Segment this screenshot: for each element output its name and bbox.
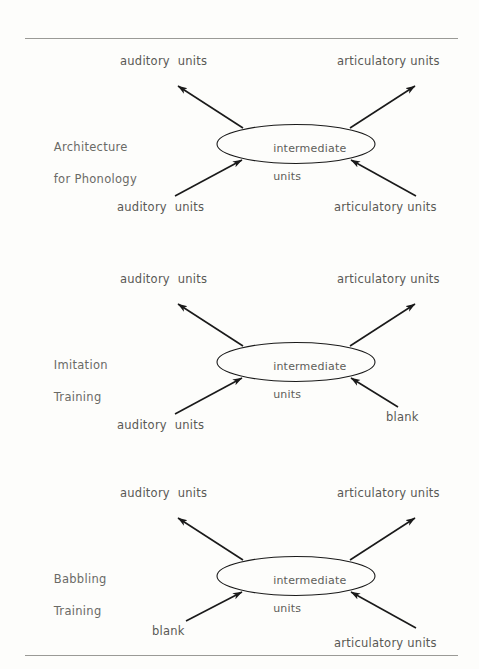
node-label-line1: intermediate [273, 360, 346, 373]
diagram-page: Architecture for Phonology intermediate … [0, 0, 479, 669]
label-top-left: auditory units [120, 54, 207, 69]
section-label-line2: Training [54, 390, 102, 404]
diagram-block-babbling-training: Babbling Training intermediate units aud… [0, 476, 479, 669]
section-label-line1: Imitation [54, 358, 108, 372]
arrow-out-upper-right [350, 86, 415, 128]
label-top-left: auditory units [120, 486, 207, 501]
arrow-out-upper-left [178, 304, 243, 346]
label-top-left: auditory units [120, 272, 207, 287]
label-top-right: articulatory units [337, 486, 440, 501]
arrow-out-upper-right [350, 304, 415, 346]
diagram-block-architecture-for-phonology: Architecture for Phonology intermediate … [0, 44, 479, 244]
label-bottom-right: blank [386, 410, 419, 425]
node-label: intermediate units [251, 560, 346, 630]
arrow-out-upper-left [178, 518, 243, 560]
node-label-line1: intermediate [273, 142, 346, 155]
label-top-right: articulatory units [337, 54, 440, 69]
section-label: Imitation Training [30, 341, 108, 421]
node-label-line1: intermediate [273, 574, 346, 587]
node-label: intermediate units [251, 128, 346, 198]
arrow-in-lower-left [175, 160, 242, 196]
label-bottom-right: articulatory units [334, 636, 437, 651]
arrow-in-lower-right [351, 378, 398, 407]
label-bottom-left: auditory units [117, 418, 204, 433]
node-label-line2: units [273, 602, 301, 615]
node-label-line2: units [273, 388, 301, 401]
label-bottom-left: blank [152, 624, 185, 639]
arrow-in-lower-left [186, 592, 242, 621]
section-label-line2: Training [54, 604, 102, 618]
node-label: intermediate units [251, 346, 346, 416]
arrow-out-upper-right [350, 518, 415, 560]
section-label-line1: Architecture [54, 140, 128, 154]
arrow-in-lower-right [351, 160, 416, 196]
section-label: Babbling Training [30, 555, 107, 635]
section-label-line1: Babbling [54, 572, 107, 586]
label-bottom-right: articulatory units [334, 200, 437, 215]
label-top-right: articulatory units [337, 272, 440, 287]
top-horizontal-rule [25, 38, 458, 39]
arrow-in-lower-right [351, 592, 416, 628]
section-label-line2: for Phonology [54, 172, 137, 186]
arrow-out-upper-left [178, 86, 243, 128]
arrow-in-lower-left [175, 378, 242, 414]
label-bottom-left: auditory units [117, 200, 204, 215]
node-label-line2: units [273, 170, 301, 183]
diagram-block-imitation-training: Imitation Training intermediate units au… [0, 262, 479, 462]
section-label: Architecture for Phonology [30, 123, 137, 203]
